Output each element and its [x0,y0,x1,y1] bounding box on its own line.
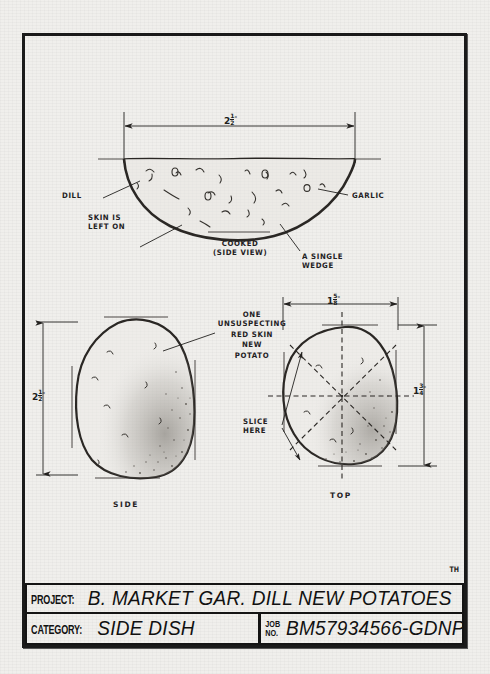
top-view-drawing [268,297,437,482]
callout-new-potato: ONEUNSUSPECTINGRED SKINNEWPOTATO [217,310,287,361]
caption-cooked-side-view: COOKED (SIDE VIEW) [213,239,267,259]
category-label: CATEGORY: [27,621,85,635]
cooked-wedge-drawing [98,112,381,251]
label-garlic: GARLIC [352,192,384,202]
title-block-project-row: PROJECT: B. MARKET GAR. DILL NEW POTATOE… [27,585,462,614]
side-view-drawing [36,317,215,478]
category-value[interactable]: SIDE DISH [97,617,195,640]
title-block: PROJECT: B. MARKET GAR. DILL NEW POTATOE… [25,583,464,645]
side-height-dimension: 212" [32,389,45,402]
job-no-cell: JOB NO. BM57934566-GDNP [261,614,463,643]
label-dill: DILL [62,192,82,202]
caption-side: SIDE [113,500,139,509]
job-no-value[interactable]: BM57934566-GDNP [286,617,462,640]
label-skin-left-on: SKIN IS LEFT ON [88,213,125,233]
drafter-initials: TH [450,566,460,575]
project-value[interactable]: B. MARKET GAR. DILL NEW POTATOES [88,587,452,610]
top-height-dimension: 134" [413,383,426,396]
caption-top: TOP [330,491,352,500]
project-cell: PROJECT: B. MARKET GAR. DILL NEW POTATOE… [27,585,462,612]
label-slice-here: SLICE HERE [243,417,268,437]
job-no-label: JOB NO. [261,619,283,638]
project-label: PROJECT: [27,591,77,605]
category-cell: CATEGORY: SIDE DISH [27,614,258,643]
title-block-category-row: CATEGORY: SIDE DISH JOB NO. BM57934566-G… [27,614,462,643]
label-a-single-wedge: A SINGLE WEDGE [302,252,343,272]
cooked-width-dimension: 212" [224,113,237,126]
top-width-dimension: 158" [327,293,340,306]
